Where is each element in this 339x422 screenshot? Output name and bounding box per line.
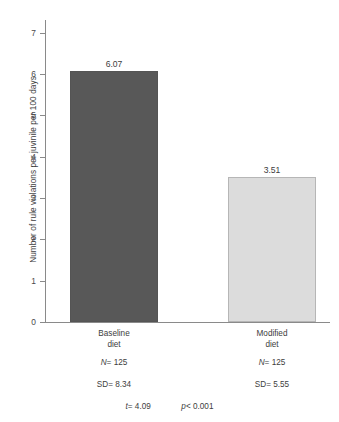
p-value-number: < 0.001 bbox=[186, 402, 214, 411]
y-tick-7: 7 bbox=[40, 33, 45, 34]
t-value: = 4.09 bbox=[128, 402, 151, 411]
category-label-modified: Modified diet bbox=[217, 328, 327, 350]
t-statistic: t= 4.09 bbox=[126, 402, 151, 411]
y-tick-0: 0 bbox=[40, 322, 45, 323]
y-tick-label-6: 6 bbox=[31, 69, 36, 79]
std-dev-modified: SD= 5.55 bbox=[217, 380, 327, 389]
category-label-baseline: Baseline diet bbox=[59, 328, 169, 350]
sample-size-modified: N= 125 bbox=[217, 358, 327, 367]
plot-area: 0 1 2 3 4 5 6 7 6.07 3.51 bbox=[45, 20, 330, 323]
y-axis-title: Number of rule violations per juvinile p… bbox=[29, 55, 38, 285]
p-value: p< 0.001 bbox=[181, 402, 213, 411]
y-tick-label-5: 5 bbox=[31, 110, 36, 120]
y-tick-2: 2 bbox=[40, 239, 45, 240]
bar-baseline-diet: 6.07 bbox=[70, 71, 158, 322]
category-label-baseline-line1: Baseline bbox=[59, 328, 169, 339]
y-tick-label-3: 3 bbox=[31, 193, 36, 203]
bar-value-baseline: 6.07 bbox=[106, 59, 123, 69]
y-tick-label-7: 7 bbox=[31, 28, 36, 38]
category-label-modified-line1: Modified bbox=[217, 328, 327, 339]
y-tick-label-0: 0 bbox=[31, 317, 36, 327]
statistics-footer: t= 4.09 p< 0.001 bbox=[0, 402, 339, 411]
y-tick-3: 3 bbox=[40, 198, 45, 199]
sample-size-modified-value: = 125 bbox=[265, 358, 286, 367]
y-tick-6: 6 bbox=[40, 74, 45, 75]
sample-size-baseline: N= 125 bbox=[59, 358, 169, 367]
y-tick-label-4: 4 bbox=[31, 152, 36, 162]
category-label-modified-line2: diet bbox=[217, 339, 327, 350]
y-tick-label-1: 1 bbox=[31, 276, 36, 286]
category-label-baseline-line2: diet bbox=[59, 339, 169, 350]
x-axis-line bbox=[45, 322, 330, 323]
sample-size-baseline-value: = 125 bbox=[107, 358, 128, 367]
bar-chart-figure: Number of rule violations per juvinile p… bbox=[0, 0, 339, 422]
y-tick-5: 5 bbox=[40, 115, 45, 116]
bar-value-modified: 3.51 bbox=[264, 165, 281, 175]
y-axis-line bbox=[45, 20, 46, 323]
bar-modified-diet: 3.51 bbox=[228, 177, 316, 322]
y-tick-label-2: 2 bbox=[31, 234, 36, 244]
std-dev-baseline: SD= 8.34 bbox=[59, 380, 169, 389]
y-tick-1: 1 bbox=[40, 281, 45, 282]
y-tick-4: 4 bbox=[40, 157, 45, 158]
